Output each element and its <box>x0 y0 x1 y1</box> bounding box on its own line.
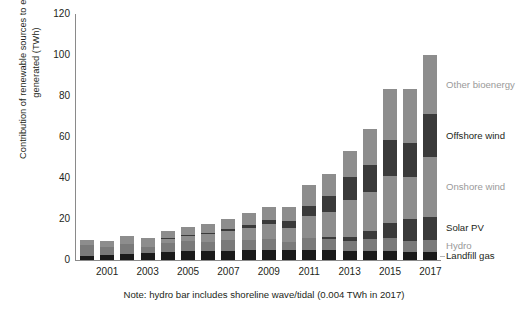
segment-hydro-2006 <box>201 242 215 251</box>
segment-onshore-wind-2013 <box>343 200 357 237</box>
segment-solar-pv-2016 <box>403 219 417 240</box>
legend-label-solar-pv: Solar PV <box>446 222 484 233</box>
segment-landfill-gas-2003 <box>141 253 155 260</box>
segment-other-bioenergy-2014 <box>363 129 377 165</box>
segment-onshore-wind-2007 <box>221 231 235 240</box>
segment-onshore-wind-2008 <box>242 228 256 240</box>
segment-hydro-2012 <box>322 239 336 250</box>
segment-other-bioenergy-2004 <box>161 231 175 238</box>
segment-other-bioenergy-2011 <box>302 185 316 206</box>
bar-2007 <box>221 219 235 260</box>
segment-landfill-gas-2010 <box>282 250 296 260</box>
segment-other-bioenergy-2007 <box>221 219 235 229</box>
segment-other-bioenergy-2008 <box>242 213 256 225</box>
y-tick-100: 100 <box>36 49 70 60</box>
segment-landfill-gas-2012 <box>322 250 336 260</box>
legend-label-other-bioenergy: Other bioenergy <box>446 79 515 90</box>
segment-other-bioenergy-2017 <box>423 55 437 114</box>
segment-hydro-2013 <box>343 241 357 251</box>
segment-offshore-wind-2014 <box>363 165 377 192</box>
chart-note: Note: hydro bar includes shoreline wave/… <box>0 289 528 300</box>
segment-other-bioenergy-2009 <box>262 207 276 220</box>
segment-hydro-2010 <box>282 242 296 249</box>
y-tick-20: 20 <box>36 213 70 224</box>
segment-hydro-2001 <box>100 247 114 255</box>
bar-2006 <box>201 224 215 260</box>
x-tick-2009: 2009 <box>249 266 289 277</box>
x-tick-2013: 2013 <box>330 266 370 277</box>
segment-hydro-2007 <box>221 240 235 250</box>
bar-2010 <box>282 207 296 260</box>
bar-2004 <box>161 231 175 260</box>
x-tick-2007: 2007 <box>208 266 248 277</box>
segment-landfill-gas-2014 <box>363 251 377 260</box>
bar-2005 <box>181 227 195 260</box>
segment-hydro-2016 <box>403 241 417 252</box>
segment-landfill-gas-2000 <box>80 256 94 260</box>
segment-other-bioenergy-2013 <box>343 151 357 177</box>
bar-2011 <box>302 185 316 260</box>
legend-label-landfill-gas: Landfill gas <box>446 250 495 261</box>
segment-landfill-gas-2007 <box>221 251 235 260</box>
y-tick-0: 0 <box>36 254 70 265</box>
segment-hydro-2002 <box>120 244 134 254</box>
legend-label-onshore-wind: Onshore wind <box>446 181 505 192</box>
segment-hydro-2008 <box>242 240 256 250</box>
segment-offshore-wind-2011 <box>302 206 316 216</box>
x-tick-2003: 2003 <box>128 266 168 277</box>
segment-landfill-gas-2001 <box>100 255 114 260</box>
bar-2015 <box>383 89 397 260</box>
y-tick-40: 40 <box>36 172 70 183</box>
segment-other-bioenergy-2016 <box>403 89 417 143</box>
segment-landfill-gas-2016 <box>403 252 417 260</box>
bar-2000 <box>80 240 94 260</box>
segment-offshore-wind-2013 <box>343 177 357 201</box>
segment-onshore-wind-2017 <box>423 157 437 216</box>
segment-other-bioenergy-2010 <box>282 207 296 221</box>
segment-onshore-wind-2006 <box>201 234 215 241</box>
segment-hydro-2005 <box>181 241 195 251</box>
bar-2003 <box>141 238 155 261</box>
segment-solar-pv-2015 <box>383 223 397 239</box>
plot-area <box>75 14 441 260</box>
bar-2013 <box>343 151 357 260</box>
x-tick-2001: 2001 <box>87 266 127 277</box>
segment-landfill-gas-2005 <box>181 251 195 260</box>
segment-hydro-2004 <box>161 243 175 253</box>
bar-2001 <box>100 241 114 260</box>
y-tick-120: 120 <box>36 8 70 19</box>
x-tick-2005: 2005 <box>168 266 208 277</box>
segment-landfill-gas-2009 <box>262 250 276 260</box>
segment-hydro-2015 <box>383 238 397 251</box>
segment-onshore-wind-2014 <box>363 192 377 230</box>
renewables-stacked-bar-chart: Contribution of renewable sources to ele… <box>0 0 528 312</box>
x-tick-2017: 2017 <box>410 266 450 277</box>
legend-label-offshore-wind: Offshore wind <box>446 130 505 141</box>
segment-onshore-wind-2015 <box>383 176 397 223</box>
segment-landfill-gas-2011 <box>302 250 316 260</box>
legend-leader-line-landfill-gas <box>440 256 445 257</box>
segment-hydro-2000 <box>80 245 94 255</box>
bar-2017 <box>423 55 437 260</box>
segment-landfill-gas-2002 <box>120 254 134 260</box>
segment-offshore-wind-2015 <box>383 140 397 176</box>
segment-hydro-2017 <box>423 240 437 252</box>
bar-2008 <box>242 213 256 260</box>
segment-other-bioenergy-2015 <box>383 89 397 140</box>
segment-hydro-2014 <box>363 239 377 251</box>
segment-hydro-2009 <box>262 239 276 250</box>
segment-other-bioenergy-2006 <box>201 224 215 233</box>
x-tick-2015: 2015 <box>370 266 410 277</box>
segment-landfill-gas-2006 <box>201 251 215 260</box>
y-axis-tick-labels: 020406080100120 <box>32 0 70 312</box>
bar-2016 <box>403 89 417 260</box>
segment-solar-pv-2017 <box>423 217 437 241</box>
segment-other-bioenergy-2005 <box>181 227 195 236</box>
segment-other-bioenergy-2012 <box>322 174 336 196</box>
bar-2009 <box>262 207 276 260</box>
segment-onshore-wind-2009 <box>262 224 276 240</box>
x-tick-2011: 2011 <box>289 266 329 277</box>
segment-offshore-wind-2017 <box>423 114 437 157</box>
y-tick-60: 60 <box>36 131 70 142</box>
bar-2012 <box>322 174 336 260</box>
